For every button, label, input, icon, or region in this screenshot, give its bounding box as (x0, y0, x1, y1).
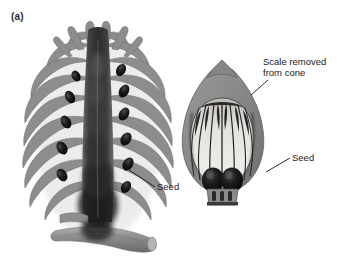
leader-line-scale-removed (251, 80, 268, 95)
cone-scale-specimen (182, 60, 264, 205)
panel-label-a: (a) (11, 11, 24, 22)
frond-specimen (22, 21, 174, 252)
label-scale-removed-from-cone: Scale removed from cone (263, 56, 341, 78)
leader-line-seed-right (266, 158, 290, 172)
figure-root: ·· ·· (a) Seed Scale removed from cone S… (0, 0, 342, 277)
figure-artwork (0, 0, 342, 277)
cone-scale-stalk (207, 189, 238, 205)
label-scale-line2: from cone (263, 67, 305, 78)
label-scale-line1: Scale removed (263, 56, 326, 67)
label-seed-right: Seed (292, 152, 314, 163)
label-seed-left: Seed (157, 181, 179, 192)
cut-off-header-text: ·· ·· (44, 0, 69, 4)
